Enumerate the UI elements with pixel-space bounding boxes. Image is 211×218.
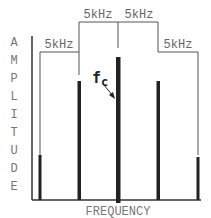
- carrier-label: fc: [92, 69, 108, 89]
- spacing-label-inner-left: 5kHz: [84, 8, 113, 22]
- spectral-line-upper-outer: [197, 157, 200, 200]
- spectrum-diagram: A M P L I T U D E FREQUENCY 5kHz 5kHz 5k…: [0, 0, 211, 218]
- spacing-label-outer-left: 5kHz: [45, 38, 74, 52]
- svg-text:M: M: [10, 54, 17, 68]
- svg-text:L: L: [10, 90, 17, 104]
- svg-text:fc: fc: [92, 69, 108, 89]
- spacing-label-outer-right: 5kHz: [164, 38, 193, 52]
- spacing-label-inner-right: 5kHz: [125, 8, 154, 22]
- carrier-arrow-icon: [104, 85, 115, 99]
- svg-text:D: D: [10, 162, 17, 176]
- spectral-line-lower-outer: [39, 155, 42, 200]
- svg-text:U: U: [10, 144, 17, 158]
- spectral-line-upper-inner: [157, 81, 161, 200]
- svg-text:T: T: [10, 126, 17, 140]
- spectral-lines: [39, 57, 200, 203]
- svg-text:A: A: [10, 36, 18, 50]
- svg-text:E: E: [10, 180, 17, 194]
- y-axis-label: A M P L I T U D E: [10, 36, 18, 194]
- x-axis-label: FREQUENCY: [86, 205, 151, 218]
- svg-text:I: I: [10, 108, 17, 122]
- spectral-line-carrier: [116, 57, 121, 203]
- spectral-line-lower-inner: [78, 81, 82, 200]
- svg-text:P: P: [10, 72, 17, 86]
